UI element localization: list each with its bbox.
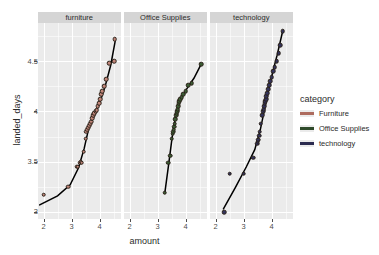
data-point [183,89,188,94]
data-point [269,75,274,80]
x-tick-label: 4 [93,222,107,231]
x-tick-label: 3 [237,222,251,231]
data-point [266,87,271,92]
data-point [227,171,232,176]
facet-panel-2: Office Supplies234 [124,12,207,233]
legend-item-technology[interactable]: technology [300,139,369,148]
data-point [273,65,278,70]
data-point [173,117,178,122]
data-point [66,185,71,190]
panel-plot-area [38,23,121,219]
data-point [79,160,84,165]
legend-item-office-supplies[interactable]: Office Supplies [300,124,369,133]
chart-root: 33.544.5 landed_days amount category Fur… [0,0,379,255]
y-tick-mark [34,162,37,163]
facet-strip-label: Office Supplies [124,12,207,23]
data-point [169,136,174,141]
data-point [271,69,276,74]
legend-item-label: Office Supplies [319,124,369,133]
data-point [104,77,109,82]
x-axis-title: amount [0,236,289,246]
y-tick-mark [34,111,37,112]
facet-panel-3: technology234 [210,12,293,233]
x-axis-ticks: 234 [210,219,293,233]
data-point [276,51,281,56]
data-point [102,84,107,89]
data-point [189,81,194,86]
data-point [260,113,265,118]
legend-item-furniture[interactable]: Furniture [300,109,369,118]
data-point [265,91,270,96]
data-point [83,136,88,141]
data-point [267,83,272,88]
x-axis-ticks: 234 [38,219,121,233]
legend-item-label: Furniture [319,109,349,118]
data-point [173,121,178,126]
x-tick-label: 2 [123,222,137,231]
data-point [112,59,117,64]
data-point [274,59,279,64]
data-point [107,61,112,66]
data-point [94,108,99,113]
y-tick-mark [34,212,37,213]
data-point [168,153,173,158]
data-point [41,193,46,198]
data-point [257,133,262,138]
facet-panel-1: furniture234 [38,12,121,233]
x-tick-label: 3 [65,222,79,231]
legend-key-swatch [300,125,314,132]
data-point [98,97,103,102]
data-point [222,210,227,215]
data-point [259,121,264,126]
data-point [199,62,204,67]
legend-key-swatch [300,140,314,147]
legend-title: category [300,94,369,104]
x-tick-label: 2 [209,222,223,231]
trend-line [38,23,121,219]
data-point [257,129,262,134]
x-tick-label: 4 [179,222,193,231]
x-axis-ticks: 234 [124,219,207,233]
panel-plot-area [124,23,207,219]
legend-item-label: technology [319,139,355,148]
data-point [112,37,117,42]
facet-strip-label: furniture [38,12,121,23]
data-point [75,164,80,169]
data-point [278,43,283,48]
legend-key-swatch [300,110,314,117]
y-tick-mark [34,61,37,62]
data-point [268,79,273,84]
data-point [280,29,285,34]
data-point [97,101,102,106]
y-axis-title: landed_days [12,60,22,180]
x-tick-label: 3 [151,222,165,231]
x-tick-label: 2 [37,222,51,231]
facet-strip-label: technology [210,12,293,23]
data-point [82,149,87,154]
data-point [163,191,168,196]
data-point [256,137,261,142]
data-point [100,89,105,94]
x-tick-label: 4 [265,222,279,231]
panel-plot-area [210,23,293,219]
data-point [166,160,171,165]
legend-items: FurnitureOffice Suppliestechnology [300,109,369,148]
data-point [251,155,256,160]
legend: category FurnitureOffice Suppliestechnol… [300,94,369,154]
data-point [241,171,246,176]
